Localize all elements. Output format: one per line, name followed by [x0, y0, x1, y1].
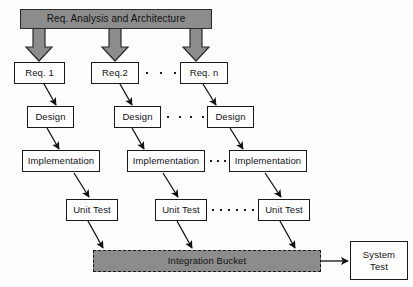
- node-implementation-n[interactable]: Implementation: [229, 150, 307, 172]
- node-design-n[interactable]: Design: [207, 106, 254, 128]
- node-label: Unit Test: [265, 205, 303, 216]
- block-arrow-to-req-n: [183, 28, 209, 61]
- arrow-impln-unitn: [265, 173, 281, 197]
- node-system-test[interactable]: System Test: [350, 241, 408, 280]
- arrow-unit1-bucket: [88, 221, 103, 248]
- node-label-line-2: Test: [370, 261, 388, 272]
- node-design-2[interactable]: Design: [114, 106, 161, 128]
- node-unit-test-2[interactable]: Unit Test: [155, 199, 207, 221]
- arrow-unitn-bucket: [280, 221, 295, 248]
- diagram-canvas: Req. Analysis and Architecture Req. 1 Re…: [0, 0, 413, 287]
- block-arrow-to-req-1: [26, 28, 52, 61]
- arrow-unit2-bucket: [177, 221, 192, 248]
- node-integration-bucket[interactable]: Integration Bucket: [93, 250, 321, 272]
- banner-req-analysis-architecture[interactable]: Req. Analysis and Architecture: [20, 9, 212, 29]
- banner-label: Req. Analysis and Architecture: [47, 13, 186, 24]
- node-label: Unit Test: [73, 205, 111, 216]
- node-label: Design: [215, 112, 245, 123]
- arrow-design1-impl1: [47, 128, 59, 149]
- node-design-1[interactable]: Design: [27, 106, 74, 128]
- node-label: Unit Test: [162, 205, 200, 216]
- node-label-line-1: System: [363, 249, 395, 260]
- node-implementation-2[interactable]: Implementation: [127, 150, 205, 172]
- node-unit-test-1[interactable]: Unit Test: [66, 199, 118, 221]
- block-arrow-to-req-2: [102, 28, 128, 61]
- node-implementation-1[interactable]: Implementation: [22, 150, 100, 172]
- node-label: Design: [35, 112, 65, 123]
- node-label: Req.2: [102, 68, 128, 79]
- node-req-1[interactable]: Req. 1: [14, 62, 65, 84]
- arrow-req2-design2: [120, 84, 132, 105]
- node-label: Req. n: [190, 68, 219, 79]
- node-req-n[interactable]: Req. n: [180, 62, 228, 84]
- node-label: Design: [122, 112, 152, 123]
- arrow-designn-impln: [230, 128, 243, 149]
- arrow-design2-impl2: [132, 128, 144, 149]
- arrow-impl1-unit1: [74, 173, 89, 197]
- node-label: Implementation: [28, 156, 94, 167]
- node-unit-test-n[interactable]: Unit Test: [258, 199, 310, 221]
- node-label: Implementation: [235, 156, 301, 167]
- node-label: Integration Bucket: [168, 256, 246, 267]
- node-label: Implementation: [133, 156, 199, 167]
- arrow-reqn-designn: [203, 84, 216, 105]
- arrow-req1-design1: [44, 84, 56, 105]
- node-label: Req. 1: [25, 68, 54, 79]
- arrow-impl2-unit2: [163, 173, 178, 197]
- node-req-2[interactable]: Req.2: [91, 62, 139, 84]
